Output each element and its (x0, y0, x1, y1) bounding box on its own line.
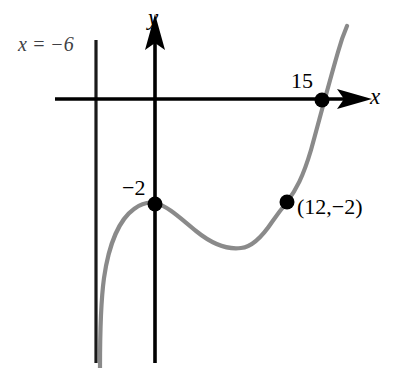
point-turning-12-minus-2 (280, 195, 295, 210)
graph-figure: x = −6 y x 15 −2 (12,−2) (0, 0, 393, 368)
x-intercept-label: 15 (291, 70, 313, 92)
graph-canvas (0, 0, 393, 368)
point-y-intercept (148, 197, 163, 212)
asymptote-label: x = −6 (18, 34, 74, 54)
turning-point-label: (12,−2) (297, 196, 363, 218)
x-axis-label: x (370, 85, 380, 108)
y-axis-label: y (148, 6, 158, 29)
y-intercept-label: −2 (122, 177, 145, 199)
point-x-intercept (315, 93, 330, 108)
